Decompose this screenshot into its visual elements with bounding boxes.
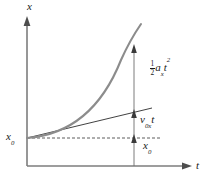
accel-term-t-exponent: 2 (167, 56, 170, 63)
accel-term-a-subscript: x (161, 70, 164, 77)
y-axis-arrowhead (24, 16, 31, 26)
position-parabola-curve (27, 24, 141, 138)
measure-arrow-to-baseline (131, 134, 137, 143)
accel-term-a: a (155, 61, 161, 73)
kinematics-figure: x t x0 12axt2 v0xt x0 (0, 0, 206, 191)
velocity-term-label: v0xt (140, 114, 154, 125)
t-axis-arrowhead (182, 163, 192, 170)
fraction-numerator: 1 (150, 60, 155, 68)
x0-axis-label-subscript: 0 (11, 139, 14, 146)
velocity-term-v-subscript: 0x (145, 122, 151, 129)
accel-term-label: 12axt2 (150, 60, 170, 76)
y-axis-label: x (27, 1, 32, 12)
graph-canvas (0, 0, 206, 191)
measure-arrow-to-curve (131, 44, 137, 53)
x0-axis-label: x0 (6, 131, 14, 142)
x0-term-label: x0 (143, 140, 151, 151)
decomposition-measure-group (131, 44, 137, 166)
fraction-denominator: 2 (150, 68, 155, 77)
axes-group (24, 16, 192, 169)
velocity-term-t: t (151, 113, 154, 125)
t-axis-label: t (196, 160, 199, 171)
x0-term-subscript: 0 (148, 148, 151, 155)
measure-arrow-to-line (131, 109, 137, 118)
one-half-fraction: 12 (150, 60, 155, 76)
